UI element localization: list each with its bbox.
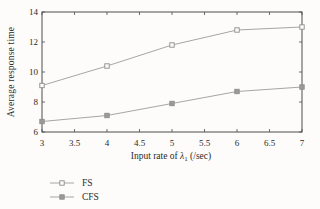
x-tick-label: 6 [235,138,240,148]
data-point-cfs [40,119,44,123]
y-tick-label: 14 [29,7,39,17]
chart-canvas: 33.544.555.566.5768101214 [0,0,320,209]
y-tick-label: 6 [34,127,39,137]
x-tick-label: 3.5 [69,138,81,148]
x-axis-title-prefix: Input rate of [131,151,180,161]
legend-item-cfs: CFS [49,190,99,204]
x-tick-label: 5.5 [199,138,211,148]
data-point-cfs [170,101,174,105]
x-tick-label: 6.5 [264,138,276,148]
chart-figure: 33.544.555.566.5768101214 Average respon… [0,0,320,209]
legend-item-fs: FS [49,176,99,190]
data-point-fs [235,28,239,32]
x-tick-label: 3 [40,138,45,148]
legend: FS CFS [49,176,99,204]
data-point-cfs [105,113,109,117]
y-tick-label: 8 [34,97,39,107]
legend-label-cfs: CFS [82,192,99,202]
y-tick-label: 12 [29,37,38,47]
data-point-cfs [235,89,239,93]
plot-box [42,12,302,132]
data-point-fs [300,25,304,29]
x-axis-title: Input rate of λ1 (/sec) [131,151,211,164]
y-axis-title: Average response time [6,27,16,118]
data-point-fs [40,83,44,87]
x-tick-label: 7 [300,138,305,148]
legend-label-fs: FS [82,178,93,188]
series-line-fs [42,27,302,86]
legend-marker-fs-icon [49,178,75,188]
data-point-cfs [300,85,304,89]
x-tick-label: 4 [105,138,110,148]
legend-marker-cfs-icon [49,192,75,202]
legend-marker-fs [60,181,64,185]
data-point-fs [105,64,109,68]
x-axis-title-suffix: (/sec) [188,151,211,161]
legend-marker-cfs [60,195,64,199]
y-tick-label: 10 [29,67,39,77]
x-tick-label: 5 [170,138,175,148]
data-point-fs [170,43,174,47]
x-tick-label: 4.5 [134,138,146,148]
